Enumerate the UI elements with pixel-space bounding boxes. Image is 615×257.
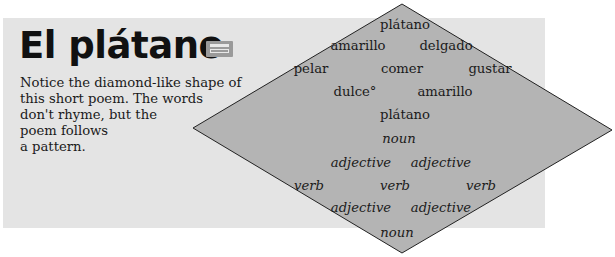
pattern-word: noun bbox=[380, 225, 413, 241]
poem-word: gustar bbox=[468, 61, 511, 77]
diamond-shape bbox=[0, 0, 615, 257]
poem-word: plátano bbox=[380, 17, 430, 33]
poem-word: amarillo bbox=[417, 84, 472, 100]
poem-word: dulce° bbox=[334, 84, 377, 100]
poem-word: delgado bbox=[419, 38, 472, 54]
pattern-word: verb bbox=[294, 178, 324, 194]
pattern-word: adjective bbox=[331, 200, 391, 216]
poem-word: plátano bbox=[380, 107, 430, 123]
pattern-word: verb bbox=[380, 178, 410, 194]
pattern-word: verb bbox=[466, 178, 496, 194]
poem-word: pelar bbox=[294, 61, 329, 77]
pattern-word: noun bbox=[382, 131, 415, 147]
pattern-word: adjective bbox=[411, 200, 471, 216]
pattern-word: adjective bbox=[411, 155, 471, 171]
pattern-word: adjective bbox=[331, 155, 391, 171]
poem-word: amarillo bbox=[330, 38, 385, 54]
poem-word: comer bbox=[381, 61, 423, 77]
